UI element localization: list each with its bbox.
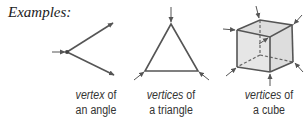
caption-object: a cube [253,103,285,117]
caption-term: vertices [147,88,184,102]
caption-connector: of [281,88,293,102]
caption-cube: vertices of a cube [235,88,303,118]
caption-object: an angle [76,103,117,117]
caption-term: vertices [245,88,282,102]
caption-term: vertex [76,88,105,102]
caption-triangle: vertices of a triangle [137,88,205,118]
caption-connector: of [105,88,117,102]
caption-connector: of [183,88,195,102]
caption-angle: vertex of an angle [62,88,130,118]
caption-object: a triangle [149,103,193,117]
cube-diagram [223,6,303,86]
triangle-diagram [134,7,209,80]
angle-diagram [52,23,114,75]
